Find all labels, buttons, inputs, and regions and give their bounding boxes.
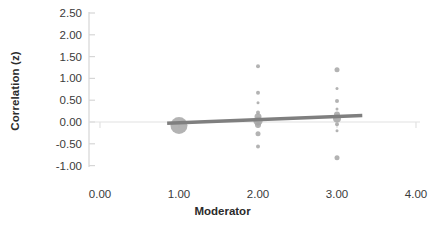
data-point	[256, 91, 260, 95]
plot-area	[0, 0, 445, 229]
data-point	[335, 99, 339, 103]
data-point	[335, 122, 339, 126]
data-point	[171, 117, 188, 134]
data-point	[256, 131, 261, 136]
data-point	[336, 87, 339, 90]
x-axis-title: Moderator	[0, 205, 445, 217]
x-tick-label: 0.00	[70, 188, 130, 200]
y-tick-marks	[89, 13, 95, 166]
data-point	[257, 101, 260, 104]
scatter-chart-figure: Correlation (z) 2.50 2.00 1.50 1.00 0.50…	[0, 0, 445, 229]
x-tick-label: 2.00	[228, 188, 288, 200]
data-points-layer	[171, 64, 342, 160]
x-tick-label: 4.00	[386, 188, 445, 200]
data-point	[335, 155, 340, 160]
data-point	[256, 144, 260, 148]
data-point	[255, 122, 261, 128]
data-point	[335, 67, 340, 72]
axis-lines	[89, 12, 420, 167]
data-point	[336, 129, 339, 132]
x-tick-label: 1.00	[149, 188, 209, 200]
x-tick-label: 3.00	[307, 188, 367, 200]
data-point	[336, 107, 339, 110]
data-point	[256, 64, 260, 68]
